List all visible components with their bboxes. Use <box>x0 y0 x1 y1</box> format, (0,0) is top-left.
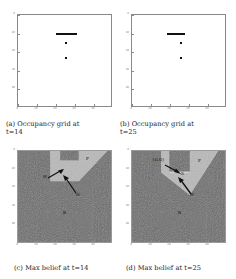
axis-tick-x <box>170 240 171 242</box>
axis-tick-y <box>132 89 134 90</box>
axis-tick-x <box>208 104 209 106</box>
annotation-arrow-right <box>62 174 78 194</box>
axis-tick-x <box>94 240 95 242</box>
annotation-arrow-ho <box>164 163 182 175</box>
occupied-dot <box>180 57 182 59</box>
annotation-background: B <box>178 211 181 215</box>
axis-tick-y <box>132 15 134 16</box>
axis-tick-x <box>189 240 190 242</box>
annotation-free-space: F <box>198 159 201 163</box>
occupied-dot <box>180 42 182 44</box>
axis-label-y: 30 <box>10 205 15 208</box>
axis-tick-x <box>151 104 152 106</box>
axis-tick-y <box>132 52 134 53</box>
occupancy-grid-a <box>17 14 112 107</box>
caption-a-line1: (a) Occupancy grid at <box>6 120 116 128</box>
axis-tick-y <box>18 15 20 16</box>
occupied-bar <box>167 33 185 36</box>
axis-label-x: 40 <box>91 244 94 247</box>
occupied-dot <box>65 57 67 59</box>
caption-b: (b) Occupancy grid at t=25 <box>120 120 232 136</box>
axis-tick-x <box>170 104 171 106</box>
axis-tick-x <box>94 104 95 106</box>
caption-c: (c) Max belief at t=14 <box>14 264 124 272</box>
axis-tick-x <box>75 240 76 242</box>
occupancy-grid-b-canvas <box>132 15 225 106</box>
axis-label-y: 20 <box>124 186 129 189</box>
axis-tick-x <box>132 104 133 106</box>
axis-label-y: 0 <box>10 13 15 16</box>
axis-label-x: 40 <box>205 244 208 247</box>
axis-label-x: 30 <box>186 108 189 111</box>
caption-a: (a) Occupancy grid at t=14 <box>6 120 116 136</box>
annotation-hypothesis-occupied-set: {H,O} <box>152 158 164 162</box>
axis-tick-x <box>18 240 19 242</box>
axis-tick-y <box>18 34 20 35</box>
caption-b-line2: t=25 <box>120 128 232 136</box>
occupied-dot <box>65 42 67 44</box>
max-belief-map-d: {H,O} F B H B <box>131 150 226 243</box>
axis-label-x: 10 <box>148 244 151 247</box>
annotation-arrow-h <box>177 176 193 195</box>
axis-tick-x <box>151 240 152 242</box>
axis-tick-y <box>18 52 20 53</box>
occupancy-grid-a-canvas <box>18 15 111 106</box>
axis-label-y: 20 <box>124 50 129 53</box>
axis-label-y: 10 <box>10 167 15 170</box>
axis-label-y: 30 <box>10 69 15 72</box>
axis-label-y: 0 <box>124 13 129 16</box>
axis-tick-y <box>18 89 20 90</box>
axis-label-x: 20 <box>167 244 170 247</box>
axis-label-y: 10 <box>124 167 129 170</box>
occupancy-grid-b <box>131 14 226 107</box>
axis-tick-x <box>132 240 133 242</box>
axis-tick-y <box>18 71 20 72</box>
figure-panel-grid: 0 10 20 30 40 0 10 20 30 40 0 <box>0 0 236 279</box>
axis-label-x: 0 <box>130 244 132 247</box>
axis-label-y: 10 <box>10 31 15 34</box>
axis-tick-x <box>37 240 38 242</box>
axis-label-x: 20 <box>53 108 56 111</box>
axis-tick-x <box>18 104 19 106</box>
axis-label-x: 10 <box>34 108 37 111</box>
max-belief-map-c: F H H B <box>17 150 112 243</box>
axis-label-x: 40 <box>91 108 94 111</box>
axis-label-y: 40 <box>10 223 15 226</box>
axis-label-y: 30 <box>124 69 129 72</box>
axis-tick-y <box>132 71 134 72</box>
axis-label-x: 30 <box>186 244 189 247</box>
axis-label-y: 40 <box>124 87 129 90</box>
axis-label-x: 30 <box>72 244 75 247</box>
caption-a-line2: t=14 <box>6 128 116 136</box>
axis-label-x: 30 <box>72 108 75 111</box>
axis-label-y: 30 <box>124 205 129 208</box>
axis-label-x: 10 <box>34 244 37 247</box>
axis-tick-x <box>37 104 38 106</box>
axis-tick-x <box>56 104 57 106</box>
annotation-free-space: F <box>86 157 89 161</box>
axis-label-x: 0 <box>16 108 18 111</box>
caption-b-line1: (b) Occupancy grid at <box>120 120 232 128</box>
axis-label-y: 10 <box>124 31 129 34</box>
axis-label-x: 40 <box>205 108 208 111</box>
axis-tick-x <box>56 240 57 242</box>
axis-label-y: 0 <box>124 149 129 152</box>
annotation-background: B <box>63 211 66 215</box>
axis-label-x: 20 <box>53 244 56 247</box>
panel-a: 0 10 20 30 40 0 10 20 30 40 <box>17 14 112 107</box>
axis-label-x: 0 <box>16 244 18 247</box>
axis-label-y: 40 <box>124 223 129 226</box>
occupied-bar <box>56 33 77 36</box>
axis-tick-x <box>189 104 190 106</box>
axis-tick-x <box>75 104 76 106</box>
axis-label-y: 0 <box>10 149 15 152</box>
panel-d: {H,O} F B H B 0 10 20 30 <box>131 150 226 243</box>
axis-tick-y <box>132 34 134 35</box>
axis-label-x: 10 <box>148 108 151 111</box>
axis-label-y: 40 <box>10 87 15 90</box>
panel-b: 0 10 20 30 40 0 10 20 30 40 <box>131 14 226 107</box>
axis-label-y: 20 <box>10 50 15 53</box>
axis-label-y: 20 <box>10 186 15 189</box>
axis-label-x: 20 <box>167 108 170 111</box>
axis-tick-x <box>208 240 209 242</box>
